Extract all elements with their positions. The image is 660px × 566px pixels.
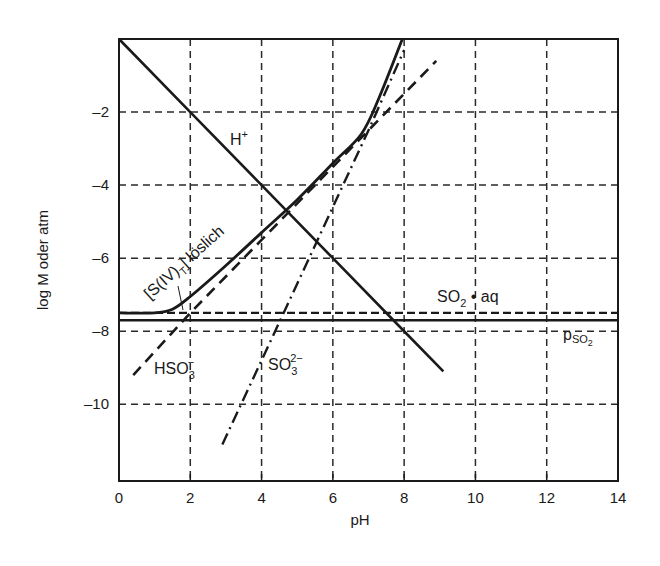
y-tick-label: –2 (92, 103, 109, 120)
chart-figure: 02468101214–2–4–6–8–10 pH log M oder atm… (0, 0, 660, 566)
x-tick-label: 0 (115, 489, 123, 506)
x-tick-label: 10 (467, 489, 484, 506)
x-tick-label: 4 (257, 489, 265, 506)
axis-ticks: 02468101214–2–4–6–8–10 (84, 103, 626, 506)
annotation-hso3: HSO3− (154, 356, 195, 381)
x-tick-label: 2 (186, 489, 194, 506)
y-tick-label: –8 (92, 322, 109, 339)
y-tick-label: –10 (84, 395, 109, 412)
y-axis-label: log M oder atm (34, 210, 51, 310)
annotation-siv-loeslich: [S(IV)T] löslich (141, 222, 230, 305)
annotation-h-plus: H+ (230, 128, 248, 148)
x-tick-label: 6 (329, 489, 337, 506)
y-tick-label: –6 (92, 249, 109, 266)
y-tick-label: –4 (92, 176, 109, 193)
x-tick-label: 14 (610, 489, 627, 506)
x-axis-label: pH (350, 511, 369, 528)
series-h (119, 39, 443, 371)
svg-text:[S(IV)T] löslich: [S(IV)T] löslich (141, 222, 230, 305)
series-so3-2 (222, 50, 404, 445)
series-hso3 (133, 61, 436, 375)
x-tick-label: 12 (538, 489, 555, 506)
x-tick-label: 8 (400, 489, 408, 506)
annotation-so3: SO32− (268, 352, 303, 377)
annotation-so2-aq: SO2 • aq (437, 288, 499, 309)
annotation-pso2: pSO2 (563, 326, 593, 348)
